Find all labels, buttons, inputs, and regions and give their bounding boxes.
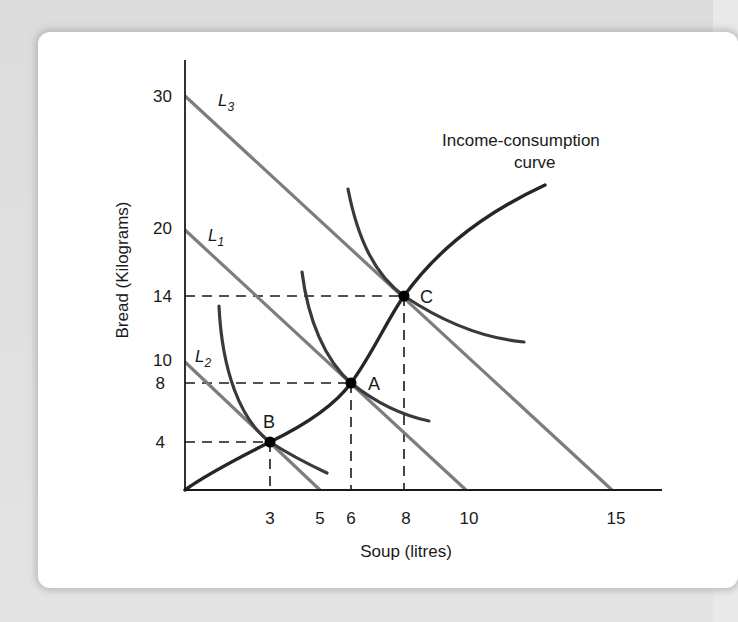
y-axis-title: Bread (Kilograms) [113, 202, 132, 339]
y-tick-labels: 4 8 10 14 20 30 [153, 87, 172, 452]
point-c-label: C [420, 287, 433, 307]
y-tick-8: 8 [156, 374, 165, 393]
x-tick-3: 3 [265, 509, 274, 528]
point-b-label: B [263, 412, 275, 432]
x-tick-15: 15 [607, 509, 626, 528]
y-tick-30: 30 [153, 87, 172, 106]
icc-label-line1: Income-consumption [442, 131, 600, 150]
l2-main: L [195, 347, 204, 366]
point-a-marker [346, 378, 357, 389]
l3-sub: 3 [227, 100, 234, 114]
x-tick-6: 6 [346, 509, 355, 528]
x-tick-10: 10 [460, 509, 479, 528]
budget-line-l3-label: L3 [218, 91, 234, 114]
l2-sub: 2 [203, 356, 211, 370]
x-tick-8: 8 [401, 509, 410, 528]
y-tick-4: 4 [156, 433, 165, 452]
x-axis-title: Soup (litres) [360, 542, 452, 561]
y-tick-14: 14 [153, 287, 172, 306]
l1-main: L [208, 226, 217, 245]
budget-line-l1-label: L1 [208, 226, 224, 249]
icc-label-line2: curve [514, 153, 556, 172]
point-a-label: A [368, 374, 380, 394]
y-tick-10: 10 [153, 351, 172, 370]
l1-sub: 1 [217, 235, 224, 249]
point-c-marker [399, 291, 410, 302]
indifference-curve-b [219, 306, 327, 473]
point-b-marker [265, 437, 276, 448]
x-tick-5: 5 [315, 509, 324, 528]
x-tick-labels: 3 5 6 8 10 15 [265, 509, 625, 528]
y-tick-20: 20 [153, 219, 172, 238]
l3-main: L [218, 91, 227, 110]
budget-line-l2-label: L2 [195, 347, 211, 370]
